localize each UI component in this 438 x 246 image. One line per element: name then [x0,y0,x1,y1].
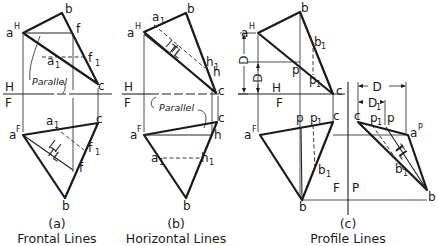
svg-text:a: a [244,128,251,142]
svg-text:c: c [354,109,361,123]
panel-b-horizontal-lines: a H a 1 b h 1 h c TL H F Parallel a F c … [122,2,226,246]
svg-text:a: a [410,126,417,140]
label-a-top: a [6,26,13,40]
svg-text:F: F [252,125,257,134]
svg-text:1: 1 [377,118,382,127]
panel-c-profile-lines: D D D D 1 [237,1,436,246]
svg-text:b: b [62,199,70,213]
svg-text:1: 1 [317,118,322,127]
profile-line-pb-front [301,127,302,199]
svg-text:a: a [127,26,134,40]
svg-text:c: c [98,79,105,93]
svg-text:1: 1 [326,170,331,179]
svg-text:1: 1 [55,61,60,70]
svg-text:c: c [218,84,225,98]
fold-label-f-c: F [276,96,283,110]
svg-text:c: c [96,112,103,126]
caption-letter-b: (b) [167,216,185,231]
fold-label-f-fp: F [333,181,340,195]
svg-text:f: f [88,141,93,155]
svg-text:a: a [151,151,158,165]
caption-letter-a: (a) [48,216,65,231]
parallel-label-a: Parallel [32,76,67,87]
fold-label-f-b: F [124,96,131,110]
fold-label-h-b: H [124,80,133,94]
svg-text:1: 1 [159,158,164,167]
svg-text:c: c [333,109,340,123]
svg-text:b: b [428,190,436,204]
svg-text:b: b [65,2,73,16]
parallel-leader-left [151,97,156,108]
caption-letter-c: (c) [340,216,357,231]
svg-text:b: b [299,200,307,214]
triangle-front-view-a [23,123,98,198]
dimension-D-top: D [237,55,251,64]
svg-text:a: a [46,114,53,128]
true-length-pb-profile [386,127,427,190]
parallel-label-b: Parallel [159,102,194,113]
svg-text:1: 1 [316,80,321,89]
svg-text:1: 1 [160,17,165,26]
svg-text:b: b [183,199,191,213]
dimension-D1-top: D [251,73,265,82]
svg-text:H: H [14,22,20,31]
svg-text:a: a [241,26,248,40]
caption-horizontal-lines: Horizontal Lines [126,231,226,246]
svg-text:a: a [152,10,159,24]
true-length-a1f1-front [56,128,84,150]
svg-text:p: p [292,63,300,77]
svg-text:p: p [296,111,304,125]
fold-label-h-c: H [272,81,281,95]
svg-text:1: 1 [209,158,214,167]
svg-text:f: f [76,22,81,36]
triangle-front-view-c [260,122,333,200]
svg-text:c: c [218,111,225,125]
triangle-top-view-c [258,12,333,94]
svg-text:h: h [201,151,209,165]
svg-text:c: c [336,84,343,98]
svg-text:1: 1 [403,169,408,178]
svg-text:f: f [79,161,84,175]
caption-profile-lines: Profile Lines [310,231,385,246]
orthographic-projection-diagram: a H b f f 1 a 1 c Parallel H F a F a 1 c… [0,0,438,246]
svg-text:b: b [187,2,195,16]
svg-text:1: 1 [95,59,100,68]
profile-line-p1b1-front [313,125,315,170]
svg-text:b: b [301,1,309,15]
svg-text:p: p [387,111,395,125]
panel-a-frontal-lines: a H b f f 1 a 1 c Parallel H F a F a 1 c… [3,2,112,246]
svg-text:h: h [213,65,221,79]
fold-label-h-a: H [5,80,14,94]
fold-label-p-fp: P [352,181,359,195]
svg-text:H: H [249,22,255,31]
svg-text:F: F [16,125,21,134]
svg-text:a: a [47,54,54,68]
dimension-D-profile: D [372,80,381,94]
svg-text:H: H [135,22,141,31]
svg-text:b: b [395,162,403,176]
fold-label-f-a: F [5,96,12,110]
svg-text:P: P [418,123,423,132]
svg-text:1: 1 [95,148,100,157]
svg-text:b: b [318,163,326,177]
svg-text:1: 1 [321,42,326,51]
true-length-ah-top [144,34,211,88]
caption-frontal-lines: Frontal Lines [17,231,96,246]
triangle-top-view-a [23,13,98,84]
svg-text:1: 1 [54,121,59,130]
svg-text:F: F [137,125,142,134]
svg-text:f: f [88,51,93,65]
true-length-label-b: TL [165,41,186,61]
svg-text:h: h [214,128,222,142]
